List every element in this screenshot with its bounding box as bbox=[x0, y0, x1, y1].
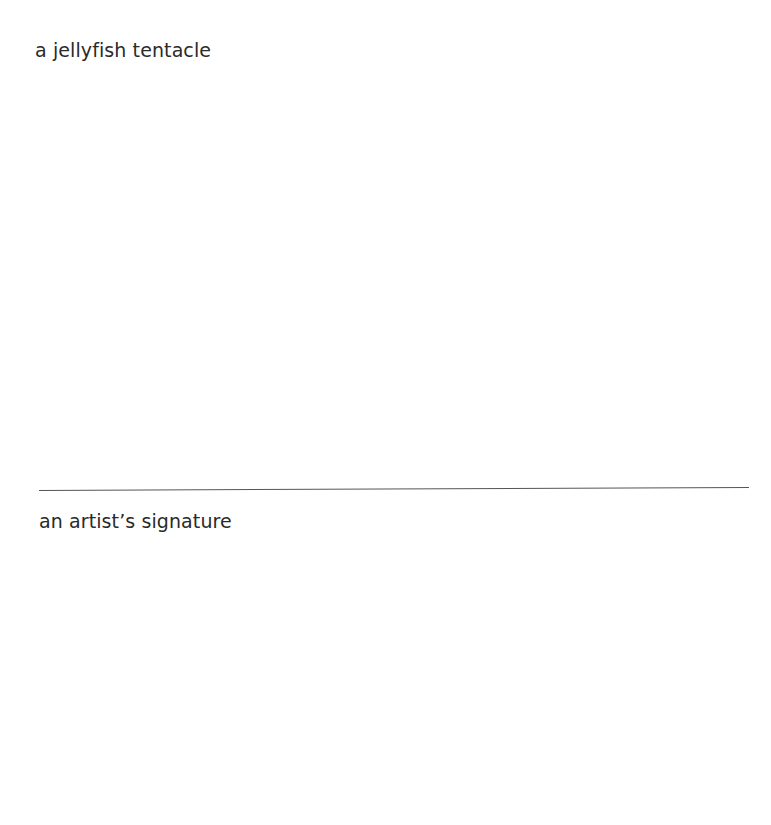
blank-drawing-area-top bbox=[35, 70, 749, 480]
blank-drawing-area-bottom bbox=[35, 540, 749, 810]
section-divider bbox=[39, 487, 749, 491]
section-prompt-artist-signature: an artist’s signature bbox=[39, 509, 232, 533]
section-prompt-jellyfish-tentacle: a jellyfish tentacle bbox=[35, 38, 211, 62]
